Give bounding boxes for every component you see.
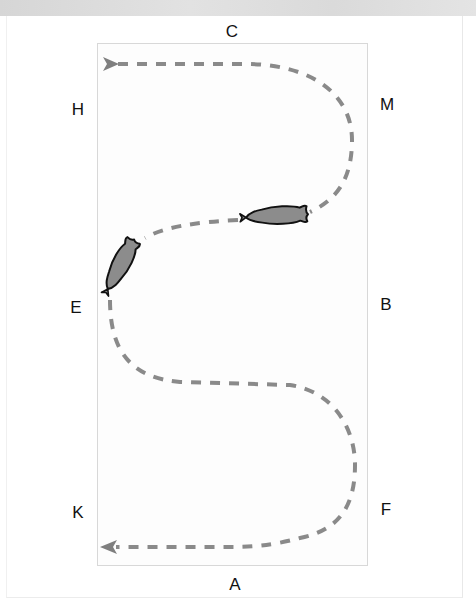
marker-c: C [226,23,238,40]
horse-icon [240,205,309,226]
start-arrow-icon [103,57,119,71]
marker-f: F [381,501,391,518]
marker-a: A [229,576,240,593]
marker-b: B [380,296,391,313]
marker-m: M [380,96,394,113]
marker-e: E [70,299,81,316]
horse-icon [97,235,142,298]
serpentine-path [110,64,355,547]
marker-h: H [72,101,84,118]
end-arrow-icon [100,540,117,554]
marker-k: K [72,504,83,521]
